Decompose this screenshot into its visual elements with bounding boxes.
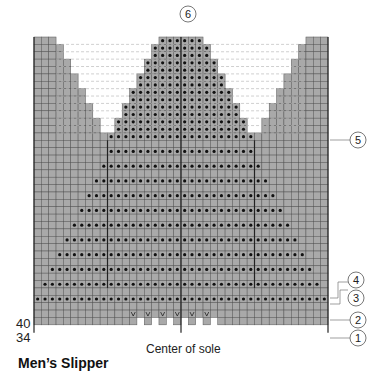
grid-cell bbox=[49, 317, 56, 324]
grid-cell bbox=[41, 140, 48, 147]
grid-cell bbox=[218, 288, 225, 295]
purl-dot bbox=[161, 238, 164, 241]
purl-dot bbox=[139, 113, 142, 116]
purl-dot bbox=[315, 283, 318, 286]
grid-cell bbox=[49, 162, 56, 169]
purl-dot bbox=[205, 238, 208, 241]
grid-cell bbox=[130, 258, 137, 265]
grid-cell bbox=[63, 67, 70, 74]
purl-dot bbox=[58, 253, 61, 256]
purl-dot bbox=[117, 253, 120, 256]
grid-cell bbox=[225, 185, 232, 192]
grid-cell bbox=[100, 185, 107, 192]
grid-cell bbox=[284, 207, 291, 214]
grid-cell bbox=[210, 140, 217, 147]
grid-cell bbox=[313, 288, 320, 295]
grid-cell bbox=[306, 303, 313, 310]
grid-cell bbox=[152, 310, 159, 317]
grid-cell bbox=[34, 303, 41, 310]
grid-cell bbox=[269, 185, 276, 192]
purl-dot bbox=[88, 283, 91, 286]
purl-dot bbox=[146, 238, 149, 241]
purl-dot bbox=[168, 98, 171, 101]
grid-cell bbox=[130, 185, 137, 192]
grid-cell bbox=[203, 244, 210, 251]
grid-cell bbox=[41, 199, 48, 206]
purl-dot bbox=[139, 91, 142, 94]
purl-dot bbox=[176, 135, 179, 138]
grid-cell bbox=[313, 111, 320, 118]
grid-cell bbox=[78, 288, 85, 295]
purl-dot bbox=[279, 209, 282, 212]
grid-cell bbox=[63, 162, 70, 169]
grid-cell bbox=[321, 310, 328, 317]
purl-dot bbox=[102, 209, 105, 212]
grid-cell bbox=[108, 140, 115, 147]
grid-cell bbox=[269, 155, 276, 162]
grid-cell bbox=[321, 281, 328, 288]
grid-cell bbox=[63, 310, 70, 317]
purl-dot bbox=[323, 297, 326, 300]
grid-cell bbox=[306, 103, 313, 110]
knitting-chart: 123456 bbox=[0, 0, 384, 387]
grid-cell bbox=[49, 273, 56, 280]
grid-cell bbox=[225, 258, 232, 265]
grid-cell bbox=[277, 118, 284, 125]
purl-dot bbox=[161, 128, 164, 131]
grid-cell bbox=[174, 140, 181, 147]
grid-cell bbox=[159, 214, 166, 221]
grid-cell bbox=[41, 273, 48, 280]
grid-cell bbox=[313, 317, 320, 324]
grid-cell bbox=[166, 273, 173, 280]
grid-cell bbox=[34, 140, 41, 147]
purl-dot bbox=[198, 194, 201, 197]
grid-cell bbox=[71, 155, 78, 162]
grid-cell bbox=[299, 44, 306, 51]
grid-cell bbox=[63, 118, 70, 125]
grid-cell bbox=[174, 273, 181, 280]
grid-cell bbox=[130, 303, 137, 310]
purl-dot bbox=[110, 238, 113, 241]
purl-dot bbox=[154, 83, 157, 86]
grid-cell bbox=[166, 155, 173, 162]
grid-cell bbox=[49, 229, 56, 236]
purl-dot bbox=[168, 120, 171, 123]
purl-dot bbox=[132, 238, 135, 241]
grid-cell bbox=[247, 273, 254, 280]
grid-cell bbox=[210, 199, 217, 206]
purl-dot bbox=[139, 165, 142, 168]
grid-cell bbox=[181, 310, 188, 317]
grid-cell bbox=[225, 229, 232, 236]
purl-dot bbox=[257, 283, 260, 286]
grid-cell bbox=[108, 258, 115, 265]
purl-dot bbox=[220, 179, 223, 182]
grid-cell bbox=[34, 89, 41, 96]
grid-cell bbox=[306, 199, 313, 206]
purl-dot bbox=[249, 283, 252, 286]
purl-dot bbox=[168, 69, 171, 72]
purl-dot bbox=[132, 98, 135, 101]
purl-dot bbox=[146, 76, 149, 79]
grid-cell bbox=[130, 317, 137, 324]
grid-cell bbox=[71, 103, 78, 110]
purl-dot bbox=[117, 283, 120, 286]
grid-cell bbox=[203, 303, 210, 310]
grid-cell bbox=[262, 140, 269, 147]
purl-dot bbox=[146, 209, 149, 212]
purl-dot bbox=[80, 283, 83, 286]
grid-cell bbox=[196, 214, 203, 221]
purl-dot bbox=[161, 113, 164, 116]
grid-cell bbox=[299, 89, 306, 96]
grid-cell bbox=[56, 185, 63, 192]
purl-dot bbox=[286, 268, 289, 271]
grid-cell bbox=[255, 288, 262, 295]
purl-dot bbox=[205, 46, 208, 49]
grid-cell bbox=[210, 310, 217, 317]
purl-dot bbox=[110, 135, 113, 138]
grid-cell bbox=[181, 170, 188, 177]
purl-dot bbox=[205, 106, 208, 109]
purl-dot bbox=[154, 120, 157, 123]
grid-cell bbox=[269, 103, 276, 110]
grid-cell bbox=[174, 244, 181, 251]
grid-cell bbox=[41, 96, 48, 103]
